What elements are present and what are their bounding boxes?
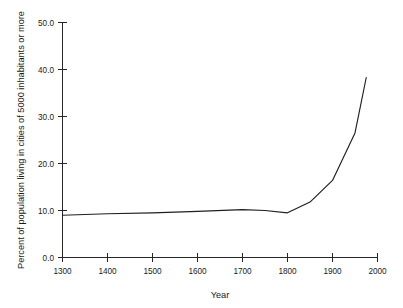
x-tick-labels: 1300 1400 1500 1600 1700 1800 1900 2000 xyxy=(53,267,387,276)
y-tick-label: 40.0 xyxy=(38,66,54,75)
x-tick-label: 1600 xyxy=(188,267,207,276)
x-tick-label: 1500 xyxy=(143,267,162,276)
y-tick-labels: 50.0 40.0 30.0 20.0 10.0 0.0 xyxy=(38,19,54,263)
y-axis-title: Percent of population living in cities o… xyxy=(16,11,26,269)
x-tick-label: 1900 xyxy=(323,267,342,276)
x-axis-title: Year xyxy=(211,290,230,300)
x-tick-label: 1800 xyxy=(278,267,297,276)
y-tick-label: 10.0 xyxy=(38,207,54,216)
y-tick-label: 0.0 xyxy=(43,254,55,263)
x-tick-label: 1400 xyxy=(98,267,117,276)
chart-figure: 50.0 40.0 30.0 20.0 10.0 0.0 1300 1400 1… xyxy=(0,0,403,308)
y-tick-label: 30.0 xyxy=(38,113,54,122)
x-tick-label: 2000 xyxy=(368,267,387,276)
y-tick-label: 50.0 xyxy=(38,19,54,28)
x-tick-label: 1300 xyxy=(53,267,72,276)
y-tick-label: 20.0 xyxy=(38,160,54,169)
data-line-urban-population xyxy=(63,77,367,215)
line-chart: 50.0 40.0 30.0 20.0 10.0 0.0 1300 1400 1… xyxy=(0,0,403,308)
x-tick-label: 1700 xyxy=(233,267,252,276)
